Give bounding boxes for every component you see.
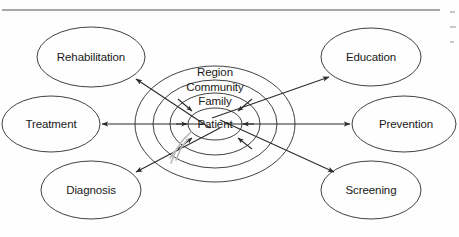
node-rehabilitation-label: Rehabilitation xyxy=(57,51,125,63)
node-diagnosis[interactable]: Diagnosis xyxy=(41,161,141,219)
figure-container: Region Community Family Patient Rehabili… xyxy=(0,0,459,237)
node-prevention[interactable]: Prevention xyxy=(352,96,456,152)
node-education-label: Education xyxy=(346,51,396,63)
caption-fragments xyxy=(450,11,456,43)
node-screening-label: Screening xyxy=(346,184,397,196)
node-prevention-label: Prevention xyxy=(379,118,433,130)
node-rehabilitation[interactable]: Rehabilitation xyxy=(37,27,145,87)
node-diagnosis-label: Diagnosis xyxy=(66,184,116,196)
ring-label-region: Region xyxy=(197,66,233,78)
node-treatment-label: Treatment xyxy=(25,118,77,130)
ring-label-family: Family xyxy=(198,95,232,107)
node-treatment[interactable]: Treatment xyxy=(2,96,100,152)
ring-label-patient: Patient xyxy=(197,118,233,130)
ring-label-community: Community xyxy=(186,81,244,93)
node-screening[interactable]: Screening xyxy=(321,161,421,219)
ecological-model-diagram: Region Community Family Patient Rehabili… xyxy=(0,0,459,237)
scan-smudge-artifact xyxy=(170,132,191,163)
node-education[interactable]: Education xyxy=(321,28,421,86)
